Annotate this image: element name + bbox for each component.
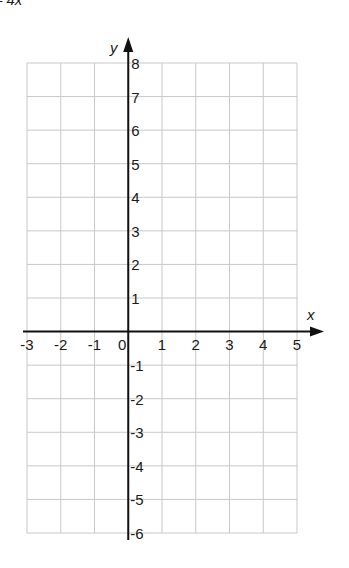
y-tick-label: -2 bbox=[130, 391, 143, 408]
y-tick-label: -1 bbox=[130, 357, 143, 374]
y-tick-label: 8 bbox=[131, 55, 139, 72]
y-tick-label: 7 bbox=[131, 89, 139, 106]
x-tick-label: 4 bbox=[259, 336, 267, 353]
coordinate-grid: xy-3-2-101234512345678-1-2-3-4-5-6 bbox=[0, 0, 349, 568]
x-tick-label: -2 bbox=[54, 336, 67, 353]
x-tick-label: 1 bbox=[158, 336, 166, 353]
y-axis-label: y bbox=[109, 39, 119, 56]
y-tick-label: -3 bbox=[130, 424, 143, 441]
y-tick-label: -4 bbox=[130, 458, 143, 475]
x-tick-label: 5 bbox=[293, 336, 301, 353]
y-tick-label: 6 bbox=[131, 122, 139, 139]
y-tick-label: 4 bbox=[131, 189, 139, 206]
y-tick-label: 1 bbox=[131, 290, 139, 307]
y-tick-label: -6 bbox=[130, 525, 143, 542]
x-tick-label: -3 bbox=[20, 336, 33, 353]
y-tick-label: 2 bbox=[131, 256, 139, 273]
x-axis-arrow-icon bbox=[310, 327, 324, 337]
x-tick-label: 3 bbox=[225, 336, 233, 353]
x-tick-label: -1 bbox=[88, 336, 101, 353]
y-axis-arrow-icon bbox=[123, 37, 133, 52]
x-axis-label: x bbox=[306, 306, 315, 323]
x-tick-label: 2 bbox=[192, 336, 200, 353]
x-tick-label: 0 bbox=[118, 336, 126, 353]
y-tick-label: 5 bbox=[131, 156, 139, 173]
y-tick-label: -5 bbox=[130, 491, 143, 508]
y-tick-label: 3 bbox=[131, 223, 139, 240]
